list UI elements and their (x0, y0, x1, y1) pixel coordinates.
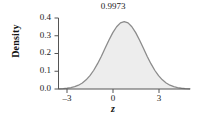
x-tick-label-0: 0 (101, 94, 125, 103)
density-chart: 0.4 0.3 0.2 0.1 0.0 –3 0 3 Density z 0.9… (0, 0, 198, 122)
y-tick-label-2: 0.2 (25, 48, 51, 57)
area-probability-annotation: 0.9973 (88, 2, 138, 11)
y-tick-label-4: 0.0 (25, 84, 51, 93)
x-tick-label-3: 3 (147, 94, 171, 103)
y-tick-label-3: 0.1 (25, 66, 51, 75)
x-axis-title: z (101, 104, 125, 114)
y-tick-label-1: 0.3 (25, 31, 51, 40)
y-axis-title: Density (11, 13, 21, 69)
x-tick-label-minus3: –3 (55, 94, 79, 103)
normal-density-area (59, 22, 191, 89)
y-tick-label-0: 0.4 (25, 13, 51, 22)
